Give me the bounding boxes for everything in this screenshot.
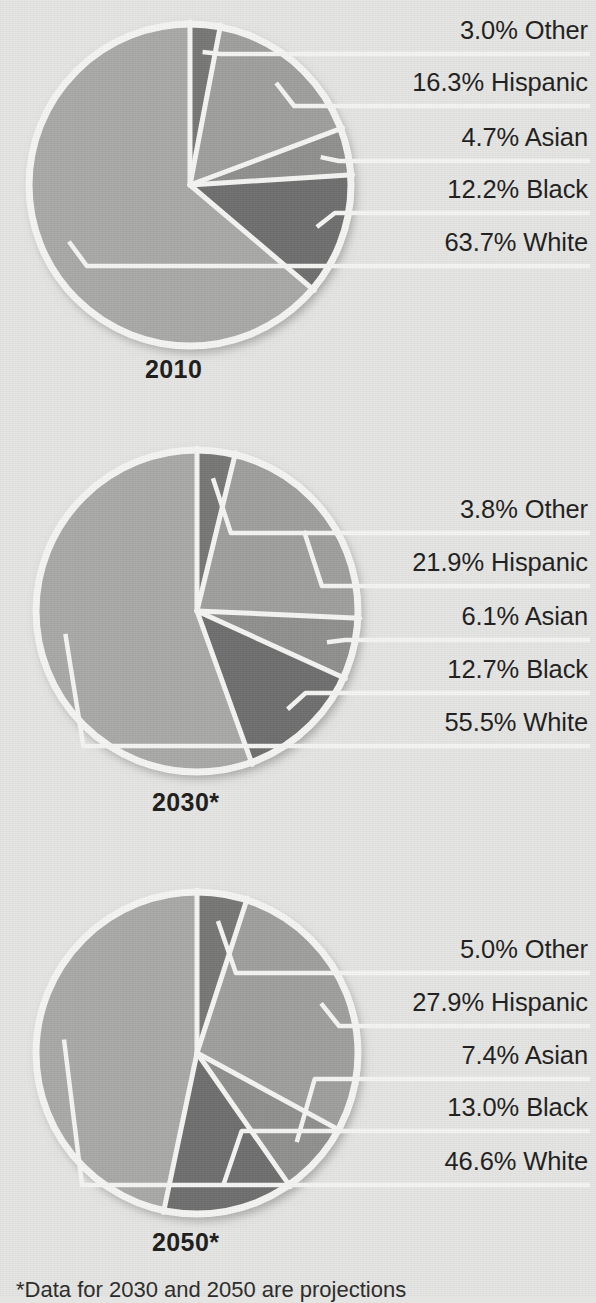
pie-2010-svg — [0, 0, 596, 420]
callout-label-asian-2030: 6.1% Asian — [461, 602, 588, 631]
callout-label-other-2050: 5.0% Other — [460, 935, 588, 964]
callout-label-white-2010: 63.7% White — [445, 228, 588, 257]
year-label-2010: 2010 — [145, 355, 202, 384]
footnote-projections: *Data for 2030 and 2050 are projections — [16, 1277, 406, 1303]
pie-2030-svg — [0, 420, 596, 860]
callout-label-white-2030: 55.5% White — [445, 708, 588, 737]
callout-label-hispanic-2050: 27.9% Hispanic — [412, 988, 588, 1017]
pie-chart-2010-block: 2010 3.0% Other 16.3% Hispanic 4.7% Asia… — [0, 0, 596, 420]
callout-label-black-2010: 12.2% Black — [447, 175, 588, 204]
callout-label-asian-2010: 4.7% Asian — [461, 123, 588, 152]
callout-label-other-2030: 3.8% Other — [460, 495, 588, 524]
pie-chart-2030-block: 2030* 3.8% Other 21.9% Hispanic 6.1% Asi… — [0, 420, 596, 860]
pie-chart-2050-block: 2050* 5.0% Other 27.9% Hispanic 7.4% Asi… — [0, 860, 596, 1280]
callout-label-asian-2050: 7.4% Asian — [461, 1041, 588, 1070]
callout-label-hispanic-2030: 21.9% Hispanic — [412, 548, 588, 577]
pie-2050-svg — [0, 860, 596, 1280]
callout-label-black-2050: 13.0% Black — [447, 1093, 588, 1122]
callout-label-white-2050: 46.6% White — [445, 1147, 588, 1176]
year-label-2030: 2030* — [152, 788, 219, 817]
callout-label-black-2030: 12.7% Black — [447, 655, 588, 684]
callout-label-other-2010: 3.0% Other — [460, 16, 588, 45]
year-label-2050: 2050* — [152, 1228, 219, 1257]
callout-label-hispanic-2010: 16.3% Hispanic — [412, 68, 588, 97]
